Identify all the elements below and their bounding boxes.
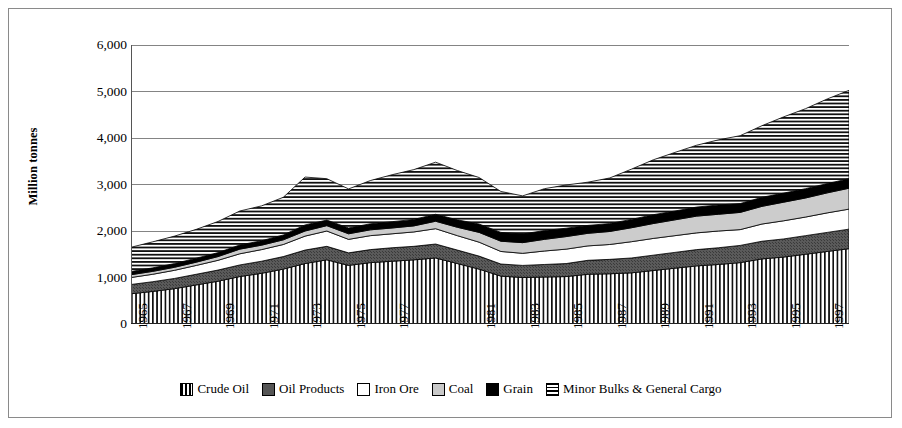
legend-item-label: Iron Ore: [374, 381, 418, 397]
y-axis-tick-labels: 01,0002,0003,0004,0005,0006,000: [71, 9, 127, 419]
legend-item-minor-bulks-general-cargo[interactable]: Minor Bulks & General Cargo: [546, 381, 722, 397]
x-tick-label: 1983: [528, 303, 541, 329]
x-tick-label: 1995: [789, 303, 802, 329]
y-tick-label: 5,000: [71, 85, 127, 99]
x-tick-label: 1989: [658, 303, 671, 329]
oil-products-swatch: [262, 383, 275, 396]
coal-swatch: [432, 383, 445, 396]
x-tick-label: 1981: [484, 303, 497, 329]
y-tick-label: 2,000: [71, 224, 127, 238]
x-tick-label: 1997: [832, 303, 845, 329]
legend-item-label: Grain: [503, 381, 533, 397]
stacked-area-plot: [131, 45, 849, 324]
chart-legend: Crude OilOil ProductsIron OreCoalGrainMi…: [9, 381, 893, 397]
crude-oil-swatch: [180, 383, 193, 396]
iron-ore-swatch: [357, 383, 370, 396]
x-tick-label: 1971: [267, 303, 280, 329]
x-tick-label: 1985: [571, 303, 584, 329]
chart-area-series: [131, 90, 849, 324]
chart-plot-wrapper: Million tonnes 01,0002,0003,0004,0005,00…: [9, 9, 893, 419]
chart-figure-frame: Million tonnes 01,0002,0003,0004,0005,00…: [8, 8, 892, 418]
x-axis-tick-labels: 1965196719691971197319751977198119831985…: [131, 329, 891, 389]
legend-item-coal[interactable]: Coal: [432, 381, 474, 397]
y-tick-label: 3,000: [71, 178, 127, 192]
x-tick-label: 1967: [180, 303, 193, 329]
x-tick-label: 1975: [354, 303, 367, 329]
legend-item-label: Minor Bulks & General Cargo: [563, 381, 722, 397]
legend-item-label: Coal: [449, 381, 474, 397]
x-tick-label: 1965: [136, 303, 149, 329]
x-tick-label: 1977: [397, 303, 410, 329]
x-tick-label: 1993: [745, 303, 758, 329]
x-tick-label: 1991: [702, 303, 715, 329]
grain-swatch: [486, 383, 499, 396]
legend-item-crude-oil[interactable]: Crude Oil: [180, 381, 249, 397]
chart-svg-canvas: [131, 45, 849, 324]
legend-item-label: Crude Oil: [197, 381, 249, 397]
minor-bulks-swatch: [546, 383, 559, 396]
x-tick-label: 1969: [223, 303, 236, 329]
legend-item-oil-products[interactable]: Oil Products: [262, 381, 344, 397]
y-tick-label: 1,000: [71, 271, 127, 285]
y-tick-label: 0: [71, 317, 127, 331]
legend-item-grain[interactable]: Grain: [486, 381, 533, 397]
legend-item-label: Oil Products: [279, 381, 344, 397]
x-tick-label: 1987: [615, 303, 628, 329]
x-tick-label: 1973: [310, 303, 323, 329]
legend-item-iron-ore[interactable]: Iron Ore: [357, 381, 418, 397]
y-tick-label: 4,000: [71, 131, 127, 145]
y-tick-label: 6,000: [71, 38, 127, 52]
y-axis-title: Million tonnes: [26, 107, 41, 227]
